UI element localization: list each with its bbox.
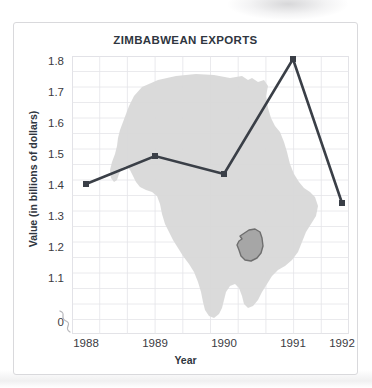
y-tick-label: 1.8 bbox=[48, 56, 64, 68]
data-point-1991 bbox=[290, 56, 296, 62]
x-tick-label: 1990 bbox=[211, 338, 237, 350]
data-point-1989 bbox=[152, 153, 158, 159]
data-point-markers bbox=[83, 56, 345, 206]
scan-artifact-top bbox=[228, 0, 348, 20]
y-tick-label: 1.6 bbox=[48, 118, 64, 130]
y-tick-label: 1.2 bbox=[48, 242, 64, 254]
data-point-1988 bbox=[83, 181, 89, 187]
x-tick-label: 1988 bbox=[73, 338, 99, 350]
chart-figure: ZIMBABWEAN EXPORTS Value (in billions of… bbox=[13, 22, 358, 375]
data-series-line bbox=[72, 56, 349, 334]
x-tick-label: 1991 bbox=[280, 338, 306, 350]
x-tick-label: 1992 bbox=[329, 338, 355, 350]
y-tick-label: 1.3 bbox=[48, 211, 64, 223]
data-point-1992 bbox=[339, 200, 345, 206]
y-tick-label: 1.5 bbox=[48, 149, 64, 161]
x-axis-title: Year bbox=[14, 354, 357, 366]
x-axis-tick-labels: 1988 1989 1990 1991 1992 bbox=[72, 338, 349, 354]
y-tick-label: 1.1 bbox=[48, 273, 64, 285]
plot-area bbox=[72, 56, 349, 334]
x-tick-label: 1989 bbox=[142, 338, 168, 350]
y-tick-label: 1.4 bbox=[48, 180, 64, 192]
data-point-1990 bbox=[221, 171, 227, 177]
chart-title: ZIMBABWEAN EXPORTS bbox=[14, 34, 357, 46]
y-tick-label: 1.7 bbox=[48, 87, 64, 99]
y-axis-tick-labels: 1.8 1.7 1.6 1.5 1.4 1.3 1.2 1.1 0 bbox=[14, 56, 68, 346]
